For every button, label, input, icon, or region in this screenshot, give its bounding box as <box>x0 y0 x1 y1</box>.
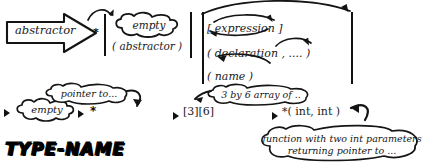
function-example-connector-arrow-icon <box>347 102 373 126</box>
array-example-cloud: 3 by 6 array of .. <box>205 84 317 106</box>
pointer-example-token: * <box>90 104 96 118</box>
alternation-bar-3 <box>202 12 204 84</box>
pointer-example-cloud: pointer to... <box>43 83 135 105</box>
expression-loop-arrow-bottom-icon <box>206 27 272 39</box>
paren-abstractor-alternative: ( abstractor ) <box>112 41 182 52</box>
abstractor-star-token: * <box>93 26 99 39</box>
pointer-example-bullet-icon <box>78 110 84 118</box>
paramlist-repeat-arrow-icon <box>274 36 316 48</box>
empty-example-bullet-icon <box>4 109 10 117</box>
array-example-connector-arrow-icon <box>193 88 213 104</box>
alternation-bar-1 <box>104 14 106 56</box>
diagram-canvas: abstractor * empty ( abstractor ) [ expr… <box>0 0 429 166</box>
type-name-title: TYPE-NAME <box>5 139 125 159</box>
function-example-bullet-icon <box>272 112 278 120</box>
array-example-bullet-icon <box>173 112 179 120</box>
pointer-example-pointer-arrow-icon <box>124 88 146 110</box>
empty-alternative-cloud: empty <box>112 12 186 38</box>
function-example-label-line1: function with two int parameters <box>258 133 426 144</box>
array-example-token: [3][6] <box>183 106 214 117</box>
name-alternative-row: ( name ) <box>207 65 253 83</box>
alternation-bar-4 <box>351 12 353 84</box>
cloud-icon <box>258 126 426 162</box>
name-alternative-label: ( name ) <box>207 70 253 83</box>
function-example-label-line2: returning pointer to ... <box>258 145 426 156</box>
array-example-label: 3 by 6 array of .. <box>205 89 317 100</box>
alternation-bar-2 <box>190 12 192 58</box>
paramlist-back-arrow-icon <box>212 52 276 66</box>
function-example-cloud: function with two int parameters returni… <box>258 126 426 162</box>
empty-alternative-label: empty <box>112 19 186 31</box>
pointer-example-label: pointer to... <box>43 88 135 99</box>
abstractor-lhs-label: abstractor <box>15 25 76 37</box>
empty-example-label: empty <box>14 104 80 115</box>
expression-loop-arrow-top-icon <box>212 12 280 24</box>
function-example-token: *( int, int ) <box>282 106 340 117</box>
